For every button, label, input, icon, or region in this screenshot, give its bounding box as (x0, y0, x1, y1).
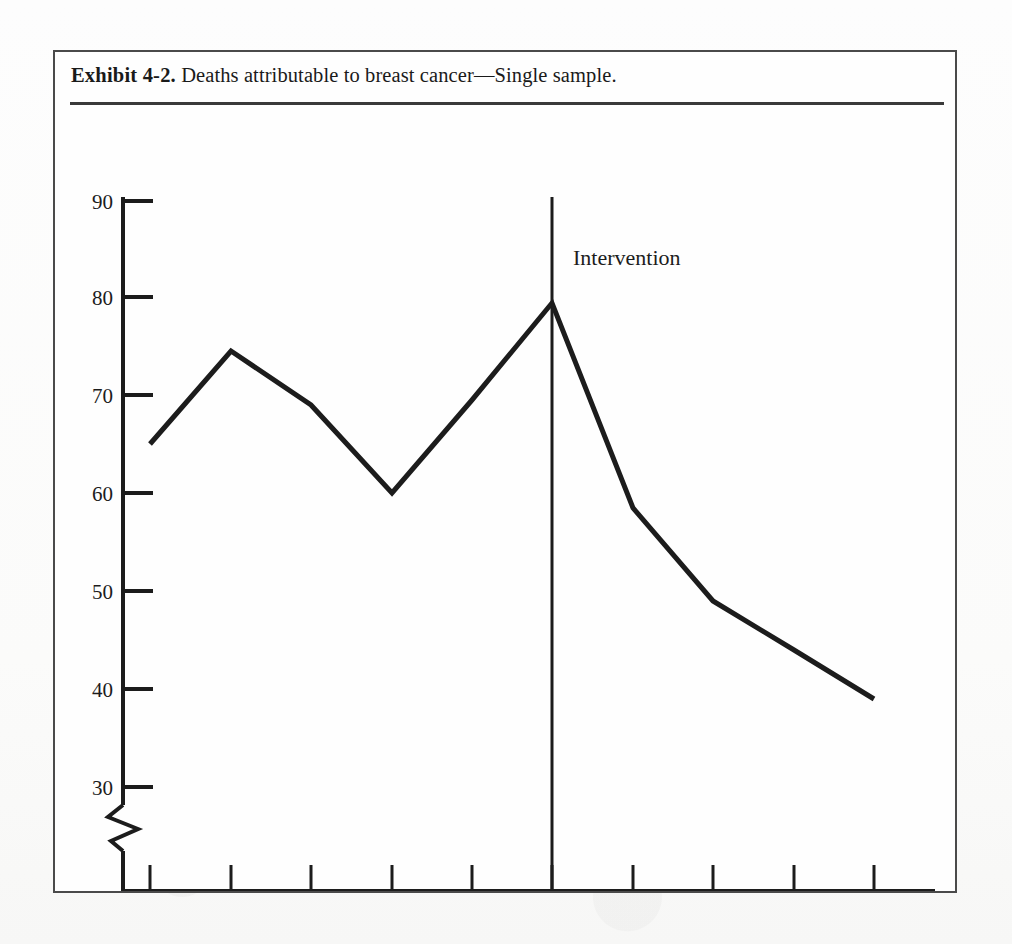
y-tick-label-30: 30 (92, 776, 113, 800)
x-axis-ticks (150, 865, 874, 891)
chart-plot-area: 90 80 70 60 50 40 30 (55, 105, 955, 891)
y-tick-label-60: 60 (92, 482, 113, 506)
y-tick-label-80: 80 (92, 286, 113, 310)
intervention-label: Intervention (573, 245, 681, 270)
exhibit-figure-panel: Exhibit 4-2. Deaths attributable to brea… (53, 50, 957, 893)
y-tick-label-50: 50 (92, 580, 113, 604)
y-tick-label-40: 40 (92, 678, 113, 702)
y-axis-ticks (123, 201, 153, 787)
line-chart-svg: 90 80 70 60 50 40 30 (55, 105, 955, 891)
exhibit-number-label: Exhibit 4-2. (71, 64, 176, 86)
data-line-breast-cancer-deaths (150, 303, 874, 699)
y-tick-label-90: 90 (92, 190, 113, 214)
figure-caption: Exhibit 4-2. Deaths attributable to brea… (71, 64, 955, 88)
exhibit-caption-text: Deaths attributable to breast cancer—Sin… (181, 64, 616, 86)
y-tick-label-70: 70 (92, 384, 113, 408)
figure-caption-bar: Exhibit 4-2. Deaths attributable to brea… (55, 52, 955, 102)
y-axis-tick-labels: 90 80 70 60 50 40 30 (92, 190, 113, 800)
y-axis-break-zigzag (108, 805, 138, 851)
